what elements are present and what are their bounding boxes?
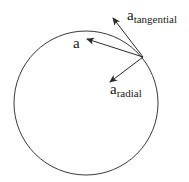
radial-acceleration-arrow (110, 57, 143, 82)
label-a-radial: aradial (110, 81, 142, 99)
label-a-base: a (73, 35, 80, 51)
circular-acceleration-diagram: a atangential aradial (0, 0, 189, 182)
label-a-tangential-sub: tangential (134, 13, 177, 25)
label-a-radial-sub: radial (117, 87, 142, 99)
acceleration-vector-arrow (87, 39, 143, 57)
circular-path (14, 31, 158, 175)
label-a: a (73, 35, 80, 51)
label-a-tangential: atangential (127, 7, 177, 25)
